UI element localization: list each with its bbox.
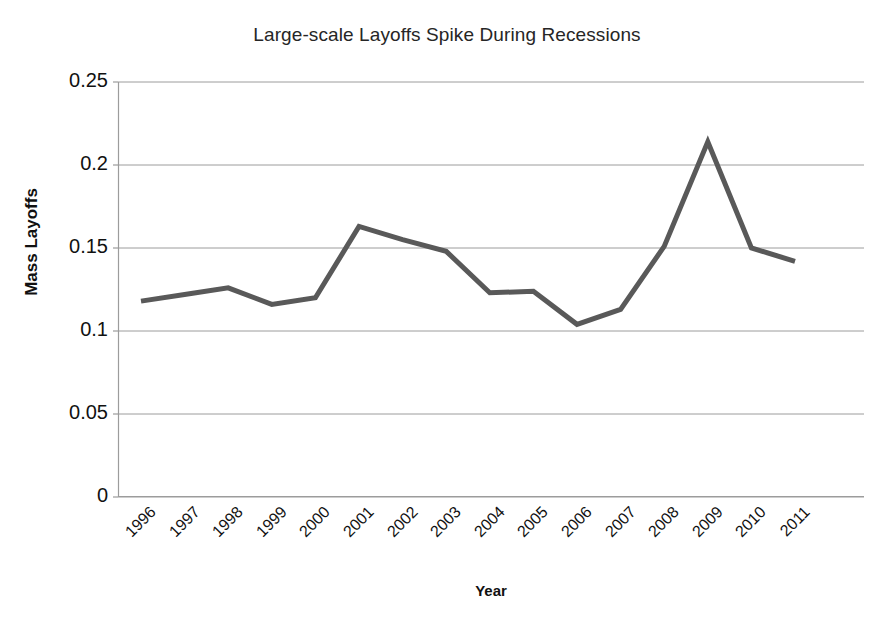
- y-axis-tick-label: 0.05: [8, 401, 108, 424]
- y-axis-tick-labels: 00.050.10.150.20.25: [0, 82, 108, 497]
- y-axis-tick-label: 0.15: [8, 235, 108, 258]
- y-axis-tick-label: 0.1: [8, 318, 108, 341]
- line-chart-svg: [118, 82, 864, 497]
- chart-title: Large-scale Layoffs Spike During Recessi…: [0, 24, 894, 46]
- plot-area: [118, 82, 864, 497]
- x-axis-title: Year: [118, 582, 864, 599]
- chart-container: Large-scale Layoffs Spike During Recessi…: [0, 0, 894, 625]
- data-series-line: [141, 142, 795, 325]
- y-axis-tick-label: 0.25: [8, 69, 108, 92]
- y-axis-tick-label: 0: [8, 484, 108, 507]
- y-axis-tick-label: 0.2: [8, 152, 108, 175]
- x-axis-tick-labels: 1996199719981999200020012002200320042005…: [118, 503, 878, 575]
